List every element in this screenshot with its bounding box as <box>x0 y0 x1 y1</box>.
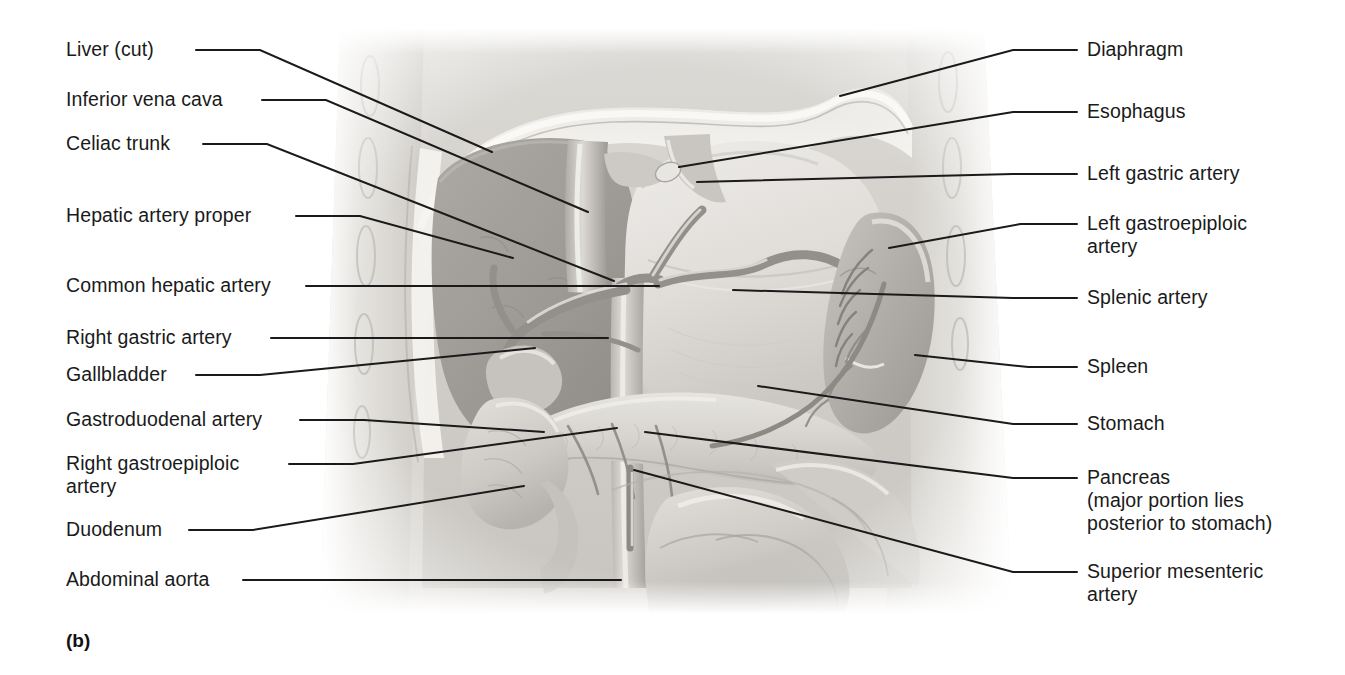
label-abdominal-aorta: Abdominal aorta <box>66 568 210 591</box>
label-gallbladder: Gallbladder <box>66 363 167 386</box>
label-celiac-trunk: Celiac trunk <box>66 132 170 155</box>
label-pancreas: Pancreas (major portion lies posterior t… <box>1087 466 1272 535</box>
label-superior-mesenteric-artery: Superior mesenteric artery <box>1087 560 1263 606</box>
label-spleen: Spleen <box>1087 355 1148 378</box>
label-liver-cut: Liver (cut) <box>66 38 154 61</box>
label-gastroduodenal-artery: Gastroduodenal artery <box>66 408 262 431</box>
label-duodenum: Duodenum <box>66 518 162 541</box>
label-diaphragm: Diaphragm <box>1087 38 1183 61</box>
label-right-gastroepiploic-artery: Right gastroepiploic artery <box>66 452 239 498</box>
label-right-gastric-artery: Right gastric artery <box>66 326 232 349</box>
label-common-hepatic-artery: Common hepatic artery <box>66 274 271 297</box>
label-splenic-artery: Splenic artery <box>1087 286 1208 309</box>
anatomy-figure: Liver (cut) Inferior vena cava Celiac tr… <box>0 0 1345 675</box>
label-inferior-vena-cava: Inferior vena cava <box>66 88 223 111</box>
label-left-gastric-artery: Left gastric artery <box>1087 162 1240 185</box>
figure-caption: (b) <box>66 630 90 652</box>
abdominal-anatomy-illustration <box>312 28 1012 614</box>
label-left-gastroepiploic-artery: Left gastroepiploic artery <box>1087 212 1247 258</box>
label-esophagus: Esophagus <box>1087 100 1185 123</box>
label-stomach: Stomach <box>1087 412 1165 435</box>
label-hepatic-artery-proper: Hepatic artery proper <box>66 204 251 227</box>
